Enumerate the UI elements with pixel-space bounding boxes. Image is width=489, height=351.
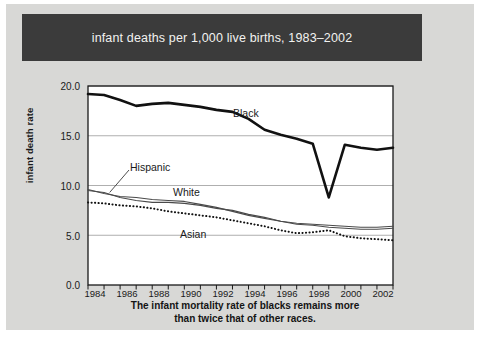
caption-line-2: than twice that of other races. (174, 313, 316, 324)
chart-plot (0, 0, 489, 351)
series-label-white: White (173, 186, 200, 198)
chart-caption: The infant mortality rate of blacks rema… (60, 300, 430, 325)
caption-line-1: The infant mortality rate of blacks rema… (131, 300, 359, 311)
series-label-black: Black (233, 107, 259, 119)
figure-root: infant deaths per 1,000 live births, 198… (0, 0, 489, 351)
plot-area-wrapper: infant death rate 20.0 15.0 10.0 5.0 0.0… (0, 0, 489, 351)
series-label-asian: Asian (180, 228, 206, 240)
series-label-hispanic: Hispanic (130, 161, 170, 173)
x-tick-marks (88, 285, 393, 290)
